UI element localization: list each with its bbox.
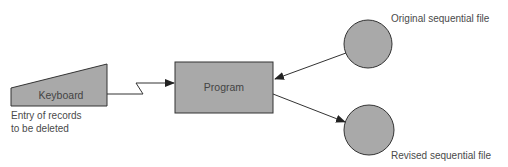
keyboard-caption-line1: Entry of records [11, 110, 82, 121]
program-label: Program [204, 81, 245, 93]
program-to-revised-arrow [273, 94, 345, 122]
revised-file-node: Revised sequential file [344, 105, 491, 161]
keyboard-to-program-connector [107, 83, 174, 94]
revised-file-label: Revised sequential file [391, 150, 491, 161]
program-node: Program [175, 62, 273, 113]
keyboard-caption-line2: to be deleted [11, 123, 69, 134]
sequential-file-update-diagram: Keyboard Entry of records to be deleted … [0, 0, 508, 167]
original-file-node: Original sequential file [344, 13, 490, 68]
keyboard-node: Keyboard [11, 64, 107, 106]
original-file-label: Original sequential file [391, 13, 490, 24]
original-file-shape [344, 20, 392, 68]
original-to-program-arrow [275, 53, 346, 79]
revised-file-shape [344, 105, 394, 155]
keyboard-label: Keyboard [39, 89, 84, 101]
